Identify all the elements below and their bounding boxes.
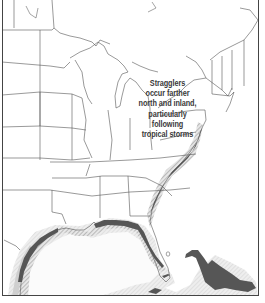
map-frame (2, 0, 259, 296)
annotation-line-3: north and inland, (127, 98, 208, 108)
annotation-line-1: Stragglers (127, 78, 208, 88)
annotation-line-6: tropical storms (127, 129, 208, 139)
annotation-line-4: particularly (127, 109, 208, 119)
annotation-line-5: following (127, 119, 208, 129)
annotation-line-2: occur farther (127, 88, 208, 98)
straggler-annotation: Stragglers occur farther north and inlan… (127, 78, 208, 139)
